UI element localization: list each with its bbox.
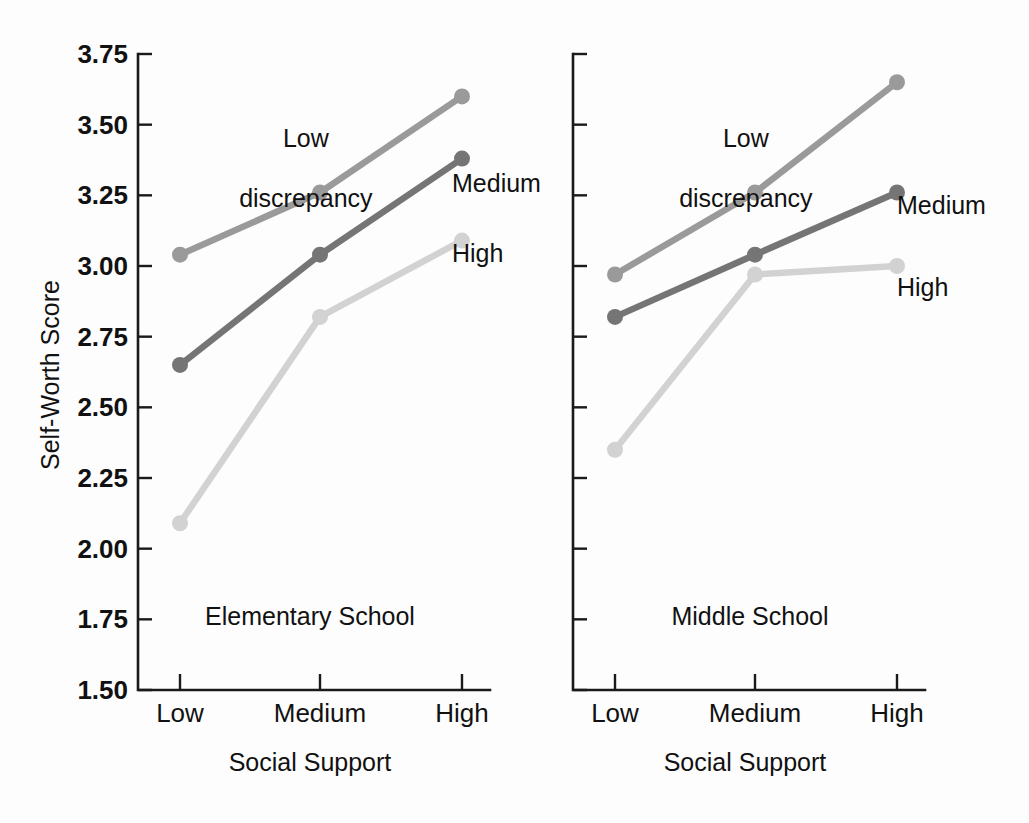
figure-canvas: 3.753.503.253.002.752.502.252.001.751.50…: [0, 0, 1029, 823]
panel-caption-middle: Middle School: [580, 602, 920, 631]
x-tick-label-medium: Medium: [255, 698, 385, 729]
data-point: [454, 88, 470, 104]
x-tick-label-low: Low: [550, 698, 680, 729]
data-point: [607, 309, 623, 325]
data-point: [747, 266, 763, 282]
annotation-low-line1: Low: [283, 124, 329, 152]
y-tick-label: 3.75: [32, 39, 128, 70]
data-point: [312, 309, 328, 325]
data-point: [607, 442, 623, 458]
y-tick-label: 2.00: [32, 533, 128, 564]
panel-elementary-school: 3.753.503.253.002.752.502.252.001.751.50…: [0, 0, 560, 823]
x-tick-label-high: High: [397, 698, 527, 729]
y-tick-label: 3.00: [32, 251, 128, 282]
x-axis-title: Social Support: [160, 748, 460, 777]
data-point: [312, 247, 328, 263]
annotation-low-line2: discrepancy: [239, 184, 372, 212]
data-point: [454, 151, 470, 167]
y-axis-ticks: [573, 54, 587, 690]
annotation-low-line1: Low: [723, 124, 769, 152]
x-axis-ticks: [615, 674, 897, 690]
series-line-high: [180, 241, 462, 524]
annotation-low-discrepancy: Low discrepancy: [610, 93, 840, 243]
data-point: [172, 515, 188, 531]
y-axis-ticks: [138, 54, 152, 690]
annotation-medium: Medium: [897, 190, 986, 220]
y-axis-title: Self-Worth Score: [36, 280, 65, 470]
data-point: [172, 357, 188, 373]
annotation-low-line2: discrepancy: [679, 184, 812, 212]
x-tick-label-high: High: [832, 698, 962, 729]
y-tick-label: 3.25: [32, 180, 128, 211]
x-tick-label-medium: Medium: [690, 698, 820, 729]
series-line-high: [615, 266, 897, 450]
annotation-high: High: [897, 272, 948, 302]
panel-middle-school: LowMediumHigh Social Support Middle Scho…: [545, 0, 1029, 823]
x-axis-ticks: [180, 674, 462, 690]
y-tick-label: 1.75: [32, 604, 128, 635]
annotation-high: High: [452, 238, 503, 268]
data-point: [889, 74, 905, 90]
data-point: [747, 247, 763, 263]
data-point: [607, 266, 623, 282]
y-tick-label: 1.50: [32, 675, 128, 706]
panel-caption-elementary: Elementary School: [140, 602, 480, 631]
annotation-low-discrepancy: Low discrepancy: [170, 93, 400, 243]
x-tick-label-low: Low: [115, 698, 245, 729]
y-tick-label: 3.50: [32, 109, 128, 140]
annotation-medium: Medium: [452, 168, 541, 198]
x-axis-title: Social Support: [595, 748, 895, 777]
data-point: [172, 247, 188, 263]
